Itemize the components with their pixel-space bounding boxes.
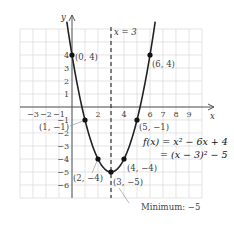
data-point (95, 156, 100, 161)
point-label: (3, −5) (113, 177, 143, 187)
tick-labels: −3−2−12467894321−1−2−3−4−5−6 (27, 51, 191, 190)
axes: xy (20, 12, 215, 198)
point-label: (6, 4) (152, 59, 175, 69)
data-point (108, 169, 113, 174)
symmetry-label: x = 3 (114, 27, 137, 37)
y-tick-label: −5 (57, 168, 69, 177)
x-tick-label: 9 (186, 110, 191, 119)
x-tick-label: 2 (95, 110, 100, 119)
point-label: (5, −1) (139, 122, 169, 132)
x-tick-label: −2 (40, 110, 52, 119)
x-tick-label: 6 (147, 110, 152, 119)
y-tick-label: 3 (64, 64, 69, 73)
x-tick-label: −3 (27, 110, 39, 119)
x-axis-label: x (210, 111, 215, 121)
data-point (147, 52, 152, 57)
point-label: (2, −4) (73, 173, 103, 183)
equation-line-2: = (x − 3)² − 5 (160, 149, 228, 160)
y-tick-label: 4 (64, 51, 69, 60)
data-point (82, 117, 87, 122)
x-tick-label: 7 (160, 110, 165, 119)
x-tick-label: 4 (121, 110, 126, 119)
y-tick-label: −3 (57, 142, 69, 151)
y-tick-label: −6 (57, 181, 69, 190)
point-label: (1, −1) (39, 122, 69, 132)
y-tick-label: −4 (57, 155, 69, 164)
point-label: (4, −4) (127, 163, 157, 173)
data-point (69, 52, 74, 57)
point-label: (0, 4) (75, 52, 98, 62)
y-tick-label: 1 (64, 90, 69, 99)
minimum-label: Minimum: −5 (141, 202, 200, 212)
equation-label: f(x) = x² − 6x + 4= (x − 3)² − 5 (142, 136, 228, 160)
equation-line-1: f(x) = x² − 6x + 4 (142, 136, 228, 147)
y-tick-label: 2 (64, 77, 69, 86)
data-point (121, 156, 126, 161)
minimum-annotation: Minimum: −5 (119, 188, 200, 212)
x-tick-label: 8 (173, 110, 178, 119)
parabola-graph: xy −3−2−12467894321−1−2−3−4−5−6 x = 3 (0… (0, 0, 234, 229)
y-axis-label: y (60, 12, 66, 22)
